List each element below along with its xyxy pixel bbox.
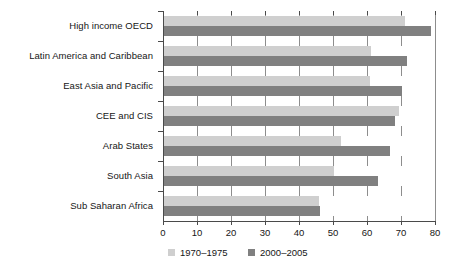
x-tick-label-80: 80 bbox=[430, 227, 441, 238]
category-axis-labels: High income OECDLatin America and Caribb… bbox=[0, 11, 158, 221]
bar-3-series-0 bbox=[164, 106, 399, 116]
x-tick-60 bbox=[367, 221, 368, 225]
bar-2-series-0 bbox=[164, 76, 370, 86]
x-tick-top-0 bbox=[163, 11, 164, 15]
bar-1-series-0 bbox=[164, 46, 371, 56]
x-tick-top-20 bbox=[231, 11, 232, 15]
bar-chart: High income OECDLatin America and Caribb… bbox=[0, 0, 459, 277]
bar-5-series-1 bbox=[164, 176, 378, 186]
x-tick-top-40 bbox=[299, 11, 300, 15]
bar-1-series-1 bbox=[164, 56, 407, 66]
x-tick-label-50: 50 bbox=[328, 227, 339, 238]
x-tick-label-40: 40 bbox=[294, 227, 305, 238]
bar-3-series-1 bbox=[164, 116, 395, 126]
bar-4-series-1 bbox=[164, 146, 390, 156]
x-tick-0 bbox=[163, 221, 164, 225]
category-label-4: Arab States bbox=[103, 141, 153, 151]
x-tick-top-10 bbox=[197, 11, 198, 15]
gridline-80 bbox=[435, 11, 436, 221]
x-tick-top-80 bbox=[435, 11, 436, 15]
legend-label-1: 2000–2005 bbox=[260, 247, 308, 258]
y-tick-0 bbox=[158, 11, 163, 12]
x-tick-50 bbox=[333, 221, 334, 225]
y-tick-3 bbox=[158, 101, 163, 102]
category-label-0: High income OECD bbox=[69, 21, 153, 31]
x-tick-top-70 bbox=[401, 11, 402, 15]
bar-0-series-0 bbox=[164, 16, 405, 26]
x-tick-30 bbox=[265, 221, 266, 225]
category-label-5: South Asia bbox=[107, 171, 153, 181]
x-tick-top-60 bbox=[367, 11, 368, 15]
x-tick-label-70: 70 bbox=[396, 227, 407, 238]
y-tick-4 bbox=[158, 131, 163, 132]
bar-5-series-0 bbox=[164, 166, 334, 176]
legend-item-1[interactable]: 2000–2005 bbox=[248, 247, 308, 258]
y-tick-2 bbox=[158, 71, 163, 72]
y-tick-5 bbox=[158, 161, 163, 162]
category-label-1: Latin America and Caribbean bbox=[29, 51, 153, 61]
x-tick-top-50 bbox=[333, 11, 334, 15]
plot-area bbox=[163, 11, 435, 221]
bar-0-series-1 bbox=[164, 26, 431, 36]
x-tick-label-10: 10 bbox=[192, 227, 203, 238]
legend-label-0: 1970–1975 bbox=[180, 247, 228, 258]
y-tick-6 bbox=[158, 191, 163, 192]
bar-6-series-1 bbox=[164, 206, 320, 216]
category-label-6: Sub Saharan Africa bbox=[70, 201, 153, 211]
y-tick-1 bbox=[158, 41, 163, 42]
x-tick-label-60: 60 bbox=[362, 227, 373, 238]
bar-6-series-0 bbox=[164, 196, 319, 206]
x-tick-label-20: 20 bbox=[226, 227, 237, 238]
x-tick-top-30 bbox=[265, 11, 266, 15]
x-tick-label-0: 0 bbox=[160, 227, 165, 238]
x-tick-40 bbox=[299, 221, 300, 225]
category-label-3: CEE and CIS bbox=[96, 111, 153, 121]
x-tick-80 bbox=[435, 221, 436, 225]
chart-legend: 1970–19752000–2005 bbox=[0, 247, 459, 263]
x-tick-10 bbox=[197, 221, 198, 225]
legend-item-0[interactable]: 1970–1975 bbox=[168, 247, 228, 258]
category-label-2: East Asia and Pacific bbox=[63, 81, 153, 91]
x-tick-label-30: 30 bbox=[260, 227, 271, 238]
bar-2-series-1 bbox=[164, 86, 402, 96]
legend-swatch-icon-0 bbox=[168, 249, 175, 256]
bar-4-series-0 bbox=[164, 136, 341, 146]
x-tick-70 bbox=[401, 221, 402, 225]
value-axis-labels: 01020304050607080 bbox=[0, 227, 459, 241]
legend-swatch-icon-1 bbox=[248, 249, 255, 256]
x-tick-20 bbox=[231, 221, 232, 225]
